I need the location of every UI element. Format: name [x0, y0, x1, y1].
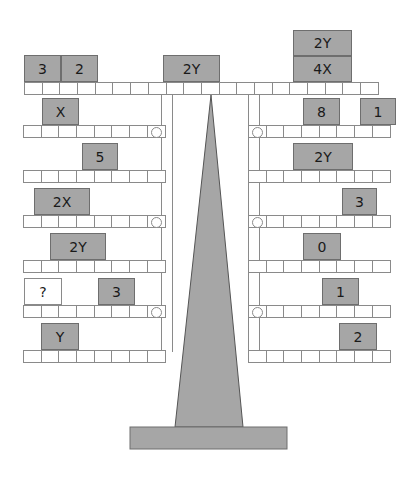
balance-scale-diagram: 322Y2Y4XX52X2Y?3Y812Y3012 — [0, 0, 420, 479]
beam-cell — [283, 170, 302, 183]
beam-cell — [42, 82, 61, 95]
beam-cell — [336, 305, 355, 318]
beam-cell — [319, 260, 338, 273]
beam-cell — [23, 170, 42, 183]
unknown-block[interactable]: ? — [24, 278, 62, 305]
beam-cell — [354, 215, 373, 228]
beam-cell — [266, 260, 285, 273]
beam-cell — [336, 170, 355, 183]
hinge-ring-icon — [252, 127, 263, 138]
beam-cell — [336, 350, 355, 363]
beam-cell — [283, 260, 302, 273]
left-shelf-4 — [23, 260, 165, 273]
beam-cell — [148, 82, 167, 95]
beam-cell — [111, 125, 130, 138]
beam-cell — [372, 350, 391, 363]
beam-cell — [319, 170, 338, 183]
beam-cell — [289, 82, 308, 95]
beam-cell — [307, 82, 326, 95]
beam-cell — [254, 82, 273, 95]
beam-cell — [94, 170, 113, 183]
beam-cell — [283, 215, 302, 228]
beam-cell — [147, 305, 166, 318]
weight-block: 0 — [303, 233, 341, 260]
beam-cell — [76, 215, 95, 228]
beam-cell — [94, 260, 113, 273]
beam-cell — [147, 215, 166, 228]
beam-cell — [248, 125, 267, 138]
beam-cell — [129, 170, 148, 183]
weight-block: 4X — [293, 56, 352, 82]
beam-cell — [23, 350, 42, 363]
beam-cell — [166, 82, 185, 95]
left-shelf-6 — [23, 350, 165, 363]
beam-cell — [301, 170, 320, 183]
hinge-ring-icon — [151, 307, 162, 318]
hinge-ring-icon — [151, 217, 162, 228]
beam-cell — [319, 350, 338, 363]
beam-cell — [76, 170, 95, 183]
beam-cell — [266, 170, 285, 183]
weight-block: 3 — [24, 55, 61, 82]
beam-cell — [354, 125, 373, 138]
beam-cell — [94, 350, 113, 363]
scale-pyramid — [175, 95, 243, 427]
hinge-ring-icon — [252, 307, 263, 318]
beam-cell — [301, 350, 320, 363]
right-shelf-5 — [248, 305, 390, 318]
beam-cell — [301, 305, 320, 318]
weight-block: 3 — [98, 278, 135, 305]
beam-cell — [236, 82, 255, 95]
weight-block: 2 — [61, 55, 98, 82]
beam-cell — [301, 125, 320, 138]
beam-cell — [129, 350, 148, 363]
beam-cell — [41, 125, 60, 138]
weight-block: 2Y — [293, 143, 353, 170]
beam-cell — [248, 170, 267, 183]
beam-cell — [76, 125, 95, 138]
beam-cell — [372, 305, 391, 318]
right-shelf-3 — [248, 215, 390, 228]
beam-cell — [111, 170, 130, 183]
beam-cell — [325, 82, 344, 95]
beam-cell — [58, 170, 77, 183]
beam-cell — [111, 215, 130, 228]
beam-cell — [266, 350, 285, 363]
weight-block: 2X — [34, 188, 90, 215]
beam-cell — [58, 125, 77, 138]
beam-cell — [129, 305, 148, 318]
beam-cell — [354, 170, 373, 183]
beam-cell — [372, 260, 391, 273]
beam-cell — [111, 350, 130, 363]
beam-cell — [183, 82, 202, 95]
right-shelf-4 — [248, 260, 390, 273]
beam-cell — [76, 350, 95, 363]
right-shelf-2 — [248, 170, 390, 183]
beam-cell — [129, 260, 148, 273]
weight-block: 1 — [360, 98, 396, 125]
beam-cell — [336, 125, 355, 138]
beam-cell — [23, 215, 42, 228]
weight-block: 2Y — [163, 55, 220, 82]
beam-cell — [41, 305, 60, 318]
beam-cell — [147, 170, 166, 183]
left-shelf-5 — [23, 305, 165, 318]
beam-cell — [266, 215, 285, 228]
beam-cell — [266, 305, 285, 318]
left-shelf-3 — [23, 215, 165, 228]
weight-block: X — [42, 98, 79, 125]
beam-cell — [319, 215, 338, 228]
beam-cell — [77, 82, 96, 95]
beam-cell — [336, 260, 355, 273]
left-shelf-2 — [23, 170, 165, 183]
beam-cell — [111, 305, 130, 318]
beam-cell — [248, 260, 267, 273]
beam-cell — [58, 350, 77, 363]
beam-cell — [336, 215, 355, 228]
weight-block: 1 — [322, 278, 359, 305]
scale-base — [130, 427, 287, 449]
beam-cell — [354, 350, 373, 363]
weight-block: 3 — [342, 188, 377, 215]
beam-cell — [219, 82, 238, 95]
beam-cell — [58, 215, 77, 228]
